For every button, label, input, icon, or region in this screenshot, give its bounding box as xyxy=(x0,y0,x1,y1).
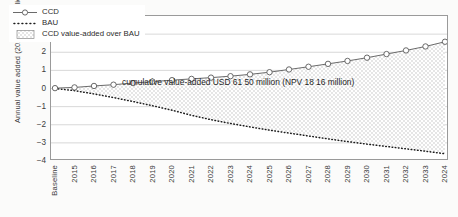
x-axis-tick-label: 2022 xyxy=(206,165,215,183)
x-axis-tick-label: 2015 xyxy=(70,165,79,183)
data-point-marker xyxy=(267,69,272,74)
data-point-marker xyxy=(306,64,311,69)
line-circle-marker-icon xyxy=(12,8,38,17)
y-axis-tick-label: 0 xyxy=(24,83,46,92)
value-added-band xyxy=(55,42,445,154)
y-axis-tick-label: 2 xyxy=(24,47,46,56)
data-point-marker xyxy=(345,58,350,63)
legend-label-bau: BAU xyxy=(42,18,58,29)
x-axis-tick-label: 2021 xyxy=(187,165,196,183)
data-point-marker xyxy=(286,67,291,72)
x-axis-tick-label: 2023 xyxy=(226,165,235,183)
y-axis-tick-label: −3 xyxy=(24,137,46,146)
data-point-marker xyxy=(325,61,330,66)
x-axis-tick-label: 2024 xyxy=(440,165,449,183)
chart-legend: CCD BAU CCD value-added over BAU xyxy=(9,5,145,42)
x-axis-tick-label: 2016 xyxy=(89,165,98,183)
cumulative-value-annotation: cumulative value-added USD 61 50 million… xyxy=(122,77,354,87)
data-point-marker xyxy=(91,83,96,88)
x-axis-tick-label: 2026 xyxy=(284,165,293,183)
x-axis-tick-label: 2031 xyxy=(382,165,391,183)
x-axis-tick-label: 2028 xyxy=(323,165,332,183)
chart-page: Annual value added (2014 USD million) 43… xyxy=(0,0,458,217)
data-point-marker xyxy=(52,85,57,90)
data-point-marker xyxy=(442,39,447,44)
dotted-line-icon xyxy=(12,19,38,28)
x-axis-tick-label: 2027 xyxy=(304,165,313,183)
y-axis-tick-label: −4 xyxy=(24,156,46,165)
x-axis-tick-label: 2033 xyxy=(421,165,430,183)
x-axis-tick-labels: Baseline20152016201720182019202020212022… xyxy=(50,163,448,217)
dotted-fill-swatch-icon xyxy=(12,30,38,39)
y-axis-tick-label: −2 xyxy=(24,119,46,128)
data-point-marker xyxy=(364,55,369,60)
y-axis-tick-label: −1 xyxy=(24,101,46,110)
x-axis-tick-label: 2032 xyxy=(401,165,410,183)
legend-label-ccd: CCD xyxy=(42,7,59,18)
annual-value-added-chart: Annual value added (2014 USD million) 43… xyxy=(0,0,458,217)
x-axis-tick-label: 2017 xyxy=(109,165,118,183)
legend-item-bau: BAU xyxy=(12,18,140,29)
legend-label-value-added: CCD value-added over BAU xyxy=(42,29,140,40)
data-point-marker xyxy=(403,48,408,53)
x-axis-tick-label: 2025 xyxy=(265,165,274,183)
y-axis-tick-label: 1 xyxy=(24,65,46,74)
x-axis-tick-label: 2019 xyxy=(148,165,157,183)
data-point-marker xyxy=(72,85,77,90)
data-point-marker xyxy=(111,82,116,87)
data-point-marker xyxy=(423,44,428,49)
x-axis-tick-label: 2029 xyxy=(343,165,352,183)
x-axis-tick-label: 2024 xyxy=(245,165,254,183)
x-axis-tick-label: 2018 xyxy=(128,165,137,183)
x-axis-tick-label: 2030 xyxy=(362,165,371,183)
x-axis-tick-label: 2020 xyxy=(167,165,176,183)
legend-item-value-added: CCD value-added over BAU xyxy=(12,29,140,40)
x-axis-tick-label: Baseline xyxy=(50,165,59,196)
data-point-marker xyxy=(384,51,389,56)
legend-item-ccd: CCD xyxy=(12,7,140,18)
